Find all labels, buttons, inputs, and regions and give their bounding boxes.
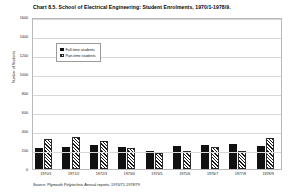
- chart-figure: Chart 8.5. School of Electrical Engineer…: [0, 0, 291, 195]
- x-axis-tick-label: 1976/7: [198, 172, 228, 176]
- y-axis-tick-label: 1600: [4, 16, 28, 20]
- y-axis-tick-label: 1000: [4, 73, 28, 77]
- bar-full-time: [90, 145, 98, 169]
- legend-swatch-part-time-icon: [60, 54, 64, 58]
- x-axis-tick-label: 1973/4: [114, 172, 144, 176]
- x-axis-tick-label: 1975/6: [170, 172, 200, 176]
- gridline: [33, 19, 281, 20]
- bar-group: [61, 19, 89, 169]
- bar-part-time: [211, 147, 219, 169]
- bar-group: [144, 19, 172, 169]
- bar-group: [172, 19, 200, 169]
- bar-full-time: [146, 151, 154, 169]
- gridline: [33, 38, 281, 39]
- bar-group: [255, 19, 283, 169]
- x-axis-tick-label: 1974/5: [142, 172, 172, 176]
- y-axis-tick-label: 600: [4, 111, 28, 115]
- legend-swatch-full-time-icon: [60, 48, 64, 52]
- bar-full-time: [229, 144, 237, 169]
- y-axis-tick-label: 1200: [4, 54, 28, 58]
- bar-part-time: [183, 151, 191, 169]
- source-note: Source: Plymouth Polytechnic Annual repo…: [33, 183, 140, 187]
- legend-label-full-time: Full-time students: [66, 48, 95, 52]
- bar-full-time: [201, 145, 209, 169]
- x-axis-tick-label: 1972/3: [86, 172, 116, 176]
- y-axis-tick-label: 0: [4, 168, 28, 172]
- gridline: [33, 95, 281, 96]
- bar-group: [227, 19, 255, 169]
- gridline: [33, 114, 281, 115]
- bar-part-time: [155, 153, 163, 169]
- y-axis-tick-label: 1400: [4, 35, 28, 39]
- bar-full-time: [173, 146, 181, 169]
- bar-part-time: [238, 151, 246, 169]
- bar-full-time: [257, 146, 265, 169]
- legend-label-part-time: Part-time students: [66, 54, 96, 58]
- y-axis-tick-label: 400: [4, 130, 28, 134]
- legend-item-part-time: Part-time students: [60, 53, 96, 59]
- bar-part-time: [100, 141, 108, 170]
- bar-series-container: [33, 19, 281, 169]
- gridline: [33, 152, 281, 153]
- gridline: [33, 76, 281, 77]
- bar-group: [200, 19, 228, 169]
- bar-group: [33, 19, 61, 169]
- chart-legend: Full-time students Part-time students: [56, 43, 101, 62]
- x-axis-tick-label: 1970/1: [31, 172, 61, 176]
- x-axis-tick-label: 1971/2: [59, 172, 89, 176]
- bar-part-time: [266, 138, 274, 169]
- plot-area: [32, 18, 282, 170]
- gridline: [33, 133, 281, 134]
- y-axis-tick-label: 800: [4, 92, 28, 96]
- chart-title: Chart 8.5. School of Electrical Engineer…: [33, 4, 283, 10]
- x-axis-tick-label: 1978/9: [253, 172, 283, 176]
- bar-group: [89, 19, 117, 169]
- bar-full-time: [118, 147, 126, 169]
- bar-full-time: [62, 147, 70, 169]
- bar-part-time: [44, 139, 52, 169]
- bar-group: [116, 19, 144, 169]
- y-axis-tick-label: 200: [4, 149, 28, 153]
- x-axis-tick-label: 1977/8: [225, 172, 255, 176]
